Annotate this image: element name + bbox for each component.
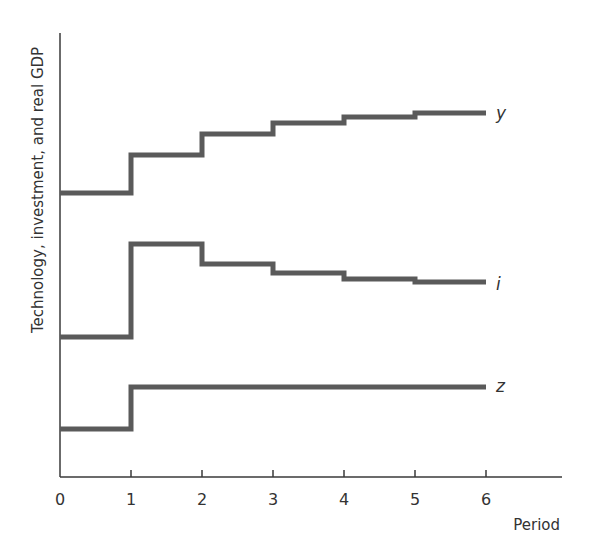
- x-ticks: [131, 470, 486, 477]
- series-i-label: i: [496, 274, 501, 294]
- x-tick-label-6: 6: [481, 490, 491, 509]
- x-tick-label-0: 0: [55, 490, 65, 509]
- x-tick-label-2: 2: [197, 490, 207, 509]
- x-tick-label-3: 3: [268, 490, 278, 509]
- x-tick-label-5: 5: [410, 490, 420, 509]
- series-z-line: [60, 387, 486, 429]
- series-i-line: [60, 244, 486, 337]
- x-axis-title: Period: [513, 516, 560, 534]
- x-tick-labels: 0 1 2 3 4 5 6: [55, 490, 491, 509]
- series-y-line: [60, 113, 486, 193]
- x-tick-label-4: 4: [339, 490, 349, 509]
- x-tick-label-1: 1: [126, 490, 136, 509]
- series-y-label: y: [495, 103, 507, 123]
- y-axis-title: Technology, investment, and real GDP: [29, 47, 47, 334]
- series-z-label: z: [495, 376, 506, 396]
- step-chart: 0 1 2 3 4 5 6 Period Technology, investm…: [0, 0, 592, 559]
